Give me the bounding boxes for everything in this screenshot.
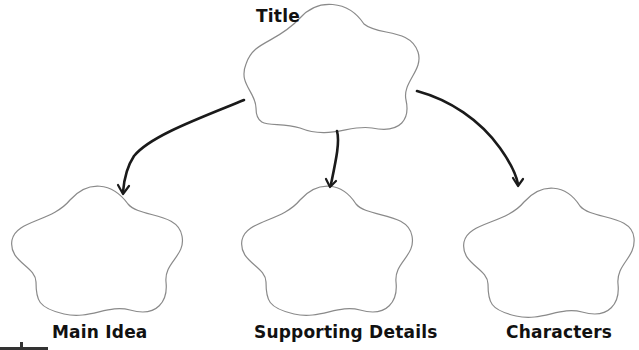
arrow-to-main-idea xyxy=(123,100,244,192)
characters-label: Characters xyxy=(506,322,612,342)
arrow-to-supporting-details xyxy=(331,131,338,184)
arrow-to-characters xyxy=(417,91,518,184)
main-idea-cloud xyxy=(12,186,183,315)
supporting-details-cloud xyxy=(242,186,413,315)
graphic-organizer xyxy=(0,0,639,350)
main-idea-label: Main Idea xyxy=(52,322,148,342)
cropped-artifact-tick xyxy=(20,342,23,350)
characters-cloud xyxy=(464,188,635,317)
title-label: Title xyxy=(256,6,300,26)
supporting-details-label: Supporting Details xyxy=(254,322,438,342)
